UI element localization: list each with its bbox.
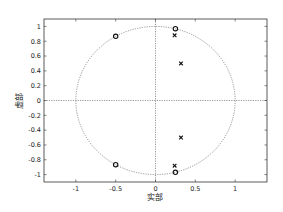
y-tick-label: 0.4 xyxy=(31,67,41,75)
x-tick-label: 0 xyxy=(153,185,157,193)
y-tick-label: -0.8 xyxy=(28,156,41,164)
x-tick-label: 1 xyxy=(233,185,237,193)
plot-area xyxy=(44,19,267,182)
y-tick-label: 0.6 xyxy=(31,52,41,60)
y-tick-label: 1 xyxy=(37,23,41,31)
x-tick-label: -1 xyxy=(73,185,79,193)
y-tick-label: 0.2 xyxy=(31,82,41,90)
y-tick-label: -0.6 xyxy=(28,141,41,149)
x-tick-label: 0.5 xyxy=(190,185,200,193)
pole-zero-plot: -1-0.500.51 10.80.60.40.20-0.2-0.4-0.6-0… xyxy=(0,0,283,212)
y-tick-label: -0.4 xyxy=(28,126,41,134)
y-tick-label: -1 xyxy=(35,171,41,179)
y-tick-label: -0.2 xyxy=(28,112,41,120)
x-axis-label: 实部 xyxy=(147,192,163,202)
y-tick-label: 0.8 xyxy=(31,38,41,46)
y-tick-label: 0 xyxy=(37,97,41,105)
y-axis-label: 虚部 xyxy=(14,93,24,109)
x-tick-label: -0.5 xyxy=(109,185,122,193)
